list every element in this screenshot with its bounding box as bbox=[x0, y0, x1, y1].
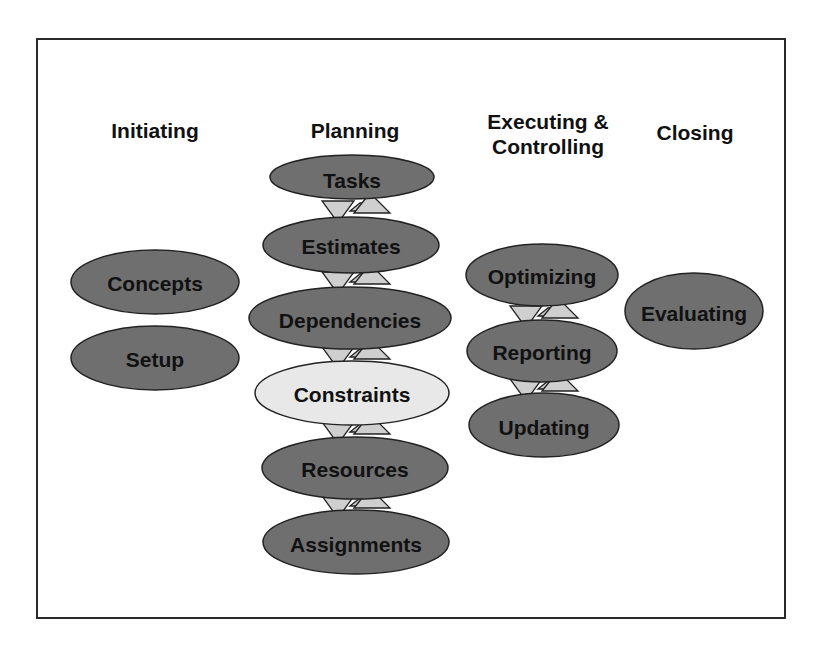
node-dependencies: Dependencies bbox=[249, 287, 451, 349]
node-label: Updating bbox=[499, 416, 590, 439]
node-optimizing: Optimizing bbox=[466, 244, 618, 306]
node-label: Optimizing bbox=[488, 265, 597, 288]
node-label: Concepts bbox=[107, 272, 203, 295]
node-label: Estimates bbox=[301, 235, 400, 258]
node-constraints: Constraints bbox=[255, 361, 449, 425]
process-diagram: Concepts Setup Tasks Estimates Dependenc… bbox=[0, 0, 819, 655]
node-updating: Updating bbox=[469, 393, 619, 457]
node-label: Tasks bbox=[323, 169, 381, 192]
node-label: Dependencies bbox=[279, 309, 421, 332]
node-setup: Setup bbox=[71, 326, 239, 390]
node-tasks: Tasks bbox=[270, 155, 434, 199]
node-concepts: Concepts bbox=[71, 250, 239, 314]
node-label: Assignments bbox=[290, 533, 422, 556]
node-label: Reporting bbox=[492, 341, 591, 364]
node-label: Evaluating bbox=[641, 302, 747, 325]
node-reporting: Reporting bbox=[467, 320, 617, 382]
node-estimates: Estimates bbox=[263, 217, 439, 273]
node-label: Resources bbox=[301, 458, 408, 481]
node-label: Setup bbox=[126, 348, 184, 371]
node-resources: Resources bbox=[262, 437, 448, 499]
node-evaluating: Evaluating bbox=[625, 273, 763, 349]
node-label: Constraints bbox=[294, 383, 411, 406]
node-assignments: Assignments bbox=[263, 510, 449, 574]
